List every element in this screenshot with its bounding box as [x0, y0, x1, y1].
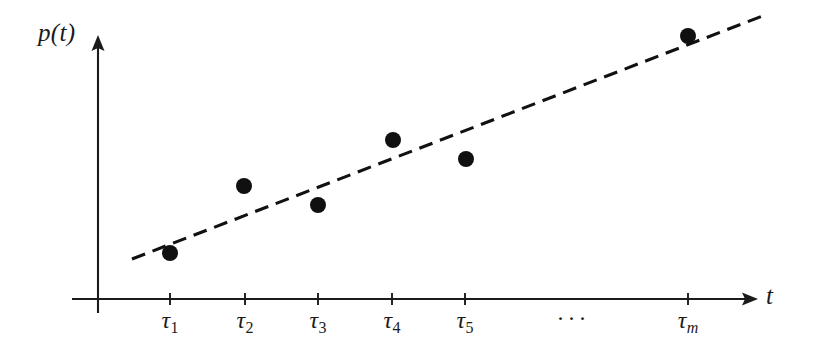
- tick-label-tau-2: τ2: [237, 308, 254, 336]
- data-point: [458, 151, 474, 167]
- tick-label-base: τ: [384, 307, 393, 333]
- tick-label-base: τ: [237, 307, 246, 333]
- x-axis-ellipsis: ···: [557, 306, 590, 330]
- trend-line-dashed: [132, 15, 765, 259]
- tick-label-subscript: m: [686, 319, 698, 336]
- axes-group: [72, 35, 758, 313]
- tick-label-subscript: 5: [465, 319, 473, 336]
- tick-label-base: τ: [162, 307, 171, 333]
- tick-label-base: τ: [678, 307, 687, 333]
- data-point: [162, 245, 178, 261]
- data-point: [236, 178, 252, 194]
- tick-label-tau-5: τ5: [457, 308, 474, 336]
- tick-label-base: τ: [310, 307, 319, 333]
- data-point: [385, 132, 401, 148]
- tick-label-subscript: 2: [245, 319, 253, 336]
- tick-label-base: τ: [457, 307, 466, 333]
- x-axis-label: t: [766, 283, 773, 308]
- tick-label-subscript: 3: [318, 319, 326, 336]
- figure-root: p(t) t τ1 τ2 τ3 τ4 τ5 ··· τm: [0, 0, 814, 355]
- tick-label-tau-1: τ1: [162, 308, 179, 336]
- plot-canvas: [0, 0, 814, 355]
- tick-label-tau-4: τ4: [384, 308, 401, 336]
- tick-label-tau-m: τm: [678, 308, 699, 336]
- data-point: [680, 28, 696, 44]
- tick-label-tau-3: τ3: [310, 308, 327, 336]
- tick-label-subscript: 4: [392, 319, 400, 336]
- tick-label-subscript: 1: [170, 319, 178, 336]
- y-axis-label: p(t): [38, 20, 75, 45]
- data-point: [310, 197, 326, 213]
